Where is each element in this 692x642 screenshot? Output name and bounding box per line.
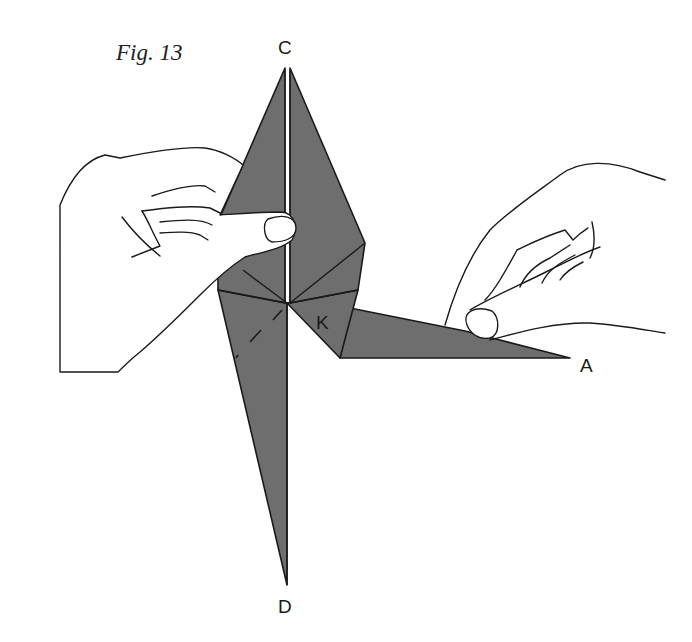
paper-model: [218, 68, 570, 585]
diagram-svg: [0, 0, 692, 642]
right-finger-tip-line: [590, 222, 594, 258]
right-hand: [445, 163, 665, 340]
label-d: D: [278, 597, 292, 616]
right-hand-lower: [490, 323, 665, 340]
right-hand-outline: [445, 163, 665, 325]
label-c: C: [278, 38, 292, 57]
origami-diagram: Fig. 13 C D A K: [0, 0, 692, 642]
tail-d: [218, 290, 287, 585]
label-k: K: [316, 313, 329, 332]
label-a: A: [580, 356, 593, 375]
right-finger-curl-4: [560, 262, 583, 280]
right-finger-top: [470, 247, 600, 310]
figure-title: Fig. 13: [116, 40, 182, 66]
right-finger-curl-1: [485, 228, 588, 300]
kite-right: [290, 68, 365, 303]
flap-a: [340, 308, 570, 358]
